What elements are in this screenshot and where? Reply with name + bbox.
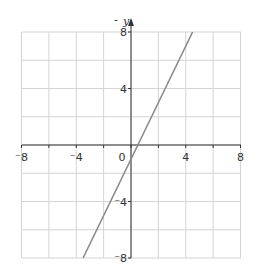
x-tick-label: 8 xyxy=(237,151,244,164)
x-tick-label: 0 xyxy=(119,151,126,164)
y-tick-label: 4 xyxy=(120,83,127,96)
x-tick-label: 4 xyxy=(182,151,189,164)
axes xyxy=(22,18,242,258)
coordinate-plane-chart: ⁻8⁻4048⁻8⁻448 y - xyxy=(0,0,253,274)
y-axis-label-dash: - xyxy=(114,13,118,26)
y-tick-label: ⁻4 xyxy=(114,196,127,209)
x-tick-label: ⁻4 xyxy=(70,151,83,164)
x-tick-label: ⁻8 xyxy=(15,151,28,164)
y-tick-label: ⁻8 xyxy=(114,252,127,265)
y-axis-label: y xyxy=(122,15,130,28)
